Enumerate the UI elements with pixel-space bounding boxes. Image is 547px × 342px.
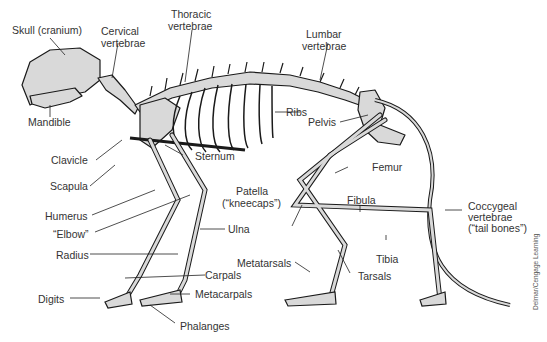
label-scapula: Scapula	[50, 180, 88, 192]
label-elbow: “Elbow”	[53, 228, 89, 240]
label-carpals: Carpals	[205, 269, 241, 281]
label-lumbar-2: vertebrae	[302, 40, 346, 52]
label-skull: Skull (cranium)	[12, 24, 82, 36]
label-phalanges: Phalanges	[180, 320, 230, 332]
label-coccygeal-3: (“tail bones”)	[468, 222, 527, 234]
label-tarsals: Tarsals	[358, 270, 391, 282]
label-digits: Digits	[38, 293, 64, 305]
label-femur: Femur	[372, 161, 402, 173]
label-thoracic-2: vertebrae	[168, 20, 212, 32]
label-patella-2: (“kneecaps”)	[222, 197, 281, 209]
skeleton-illustration	[0, 0, 547, 342]
label-sternum: Sternum	[195, 150, 235, 162]
label-radius: Radius	[56, 249, 89, 261]
label-humerus: Humerus	[45, 210, 88, 222]
label-thoracic-1: Thoracic	[171, 8, 211, 20]
label-lumbar-1: Lumbar	[306, 28, 342, 40]
label-pelvis: Pelvis	[308, 116, 336, 128]
image-credit: Delmar/Cengage Learning	[532, 234, 539, 310]
label-cervical-1: Cervical	[101, 25, 139, 37]
label-ulna: Ulna	[228, 223, 250, 235]
label-ribs: Ribs	[286, 106, 307, 118]
label-cervical-2: vertebrae	[101, 37, 145, 49]
label-fibula: Fibula	[347, 194, 376, 206]
label-metatarsals: Metatarsals	[237, 257, 291, 269]
label-patella-1: Patella	[236, 185, 268, 197]
label-metacarpals: Metacarpals	[195, 288, 252, 300]
label-mandible: Mandible	[28, 116, 71, 128]
label-tibia: Tibia	[376, 253, 398, 265]
cervical-spine	[98, 75, 138, 114]
cat-skeleton-diagram: Skull (cranium) Cervical vertebrae Thora…	[0, 0, 547, 342]
label-clavicle: Clavicle	[51, 154, 88, 166]
pelvis-shape	[358, 90, 405, 145]
